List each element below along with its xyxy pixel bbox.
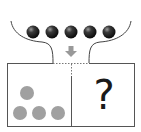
gray-ball: [20, 86, 34, 100]
dark-ball: [103, 26, 116, 39]
dark-ball: [46, 26, 59, 39]
gray-ball: [51, 106, 65, 120]
gray-ball: [32, 106, 46, 120]
left-compartment-balls: [13, 86, 65, 120]
gray-ball: [13, 106, 27, 120]
funnel-balls: [27, 26, 116, 39]
funnel-diagram: ?: [0, 0, 141, 132]
down-arrow-icon: [65, 46, 77, 57]
dark-ball: [84, 26, 97, 39]
question-mark: ?: [86, 69, 122, 121]
dark-ball: [27, 26, 40, 39]
dark-ball: [65, 26, 78, 39]
